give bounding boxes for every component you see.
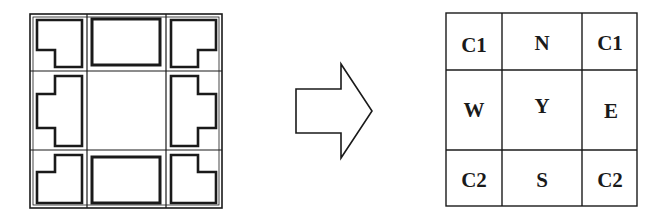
corner-block-top-right <box>171 20 216 67</box>
grid-outer-frame <box>30 14 222 208</box>
side-block-south <box>92 157 160 203</box>
side-block-east <box>171 76 216 146</box>
corner-block-top-left <box>37 20 82 67</box>
corner-block-bottom-left <box>37 155 82 203</box>
label-center: Y <box>534 94 549 118</box>
label-bottom-center: S <box>536 168 548 192</box>
corner-block-bottom-right <box>171 155 216 203</box>
side-block-west <box>37 76 82 146</box>
label-middle-left: W <box>464 98 485 122</box>
label-bottom-right: C2 <box>597 168 623 192</box>
footprint-grid <box>30 14 222 208</box>
diagram-canvas: C1 N C1 W Y E C2 S C2 <box>0 0 663 220</box>
label-bottom-left: C2 <box>461 168 487 192</box>
arrow-right-outline-icon <box>296 64 372 158</box>
side-block-north <box>92 19 160 65</box>
label-top-right: C1 <box>597 31 623 55</box>
label-top-center: N <box>534 31 549 55</box>
label-grid-text: C1 N C1 W Y E C2 S C2 <box>461 31 623 192</box>
label-middle-right: E <box>604 99 618 123</box>
grid-inner-frame <box>33 17 219 205</box>
label-top-left: C1 <box>461 33 487 57</box>
